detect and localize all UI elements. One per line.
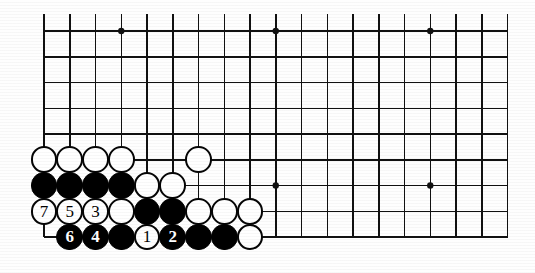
move-number-label: 6 [65, 228, 74, 245]
black-stone[interactable] [82, 172, 109, 199]
white-stone[interactable] [31, 146, 58, 173]
move-number-label: 5 [65, 202, 74, 219]
white-stone-move-5[interactable]: 5 [56, 198, 83, 225]
move-number-label: 1 [143, 228, 152, 245]
black-stone[interactable] [159, 198, 186, 225]
white-stone[interactable] [185, 198, 212, 225]
black-stone-move-4[interactable]: 4 [82, 224, 109, 251]
white-stone[interactable] [185, 146, 212, 173]
white-stone-move-7[interactable]: 7 [31, 198, 58, 225]
go-board-figure: 7536412 [0, 0, 535, 273]
black-stone-move-2[interactable]: 2 [159, 224, 186, 251]
move-number-label: 7 [40, 202, 49, 219]
white-stone[interactable] [237, 224, 264, 251]
stone-layer: 7536412 [0, 0, 535, 273]
black-stone[interactable] [56, 172, 83, 199]
white-stone[interactable] [108, 198, 135, 225]
white-stone[interactable] [237, 198, 264, 225]
move-number-label: 2 [168, 228, 177, 245]
black-stone[interactable] [31, 172, 58, 199]
white-stone[interactable] [82, 146, 109, 173]
white-stone[interactable] [56, 146, 83, 173]
white-stone-move-1[interactable]: 1 [134, 224, 161, 251]
black-stone[interactable] [108, 172, 135, 199]
move-number-label: 4 [91, 228, 100, 245]
black-stone[interactable] [108, 224, 135, 251]
white-stone[interactable] [211, 198, 238, 225]
move-number-label: 3 [91, 202, 100, 219]
black-stone-move-6[interactable]: 6 [56, 224, 83, 251]
white-stone[interactable] [108, 146, 135, 173]
white-stone[interactable] [159, 172, 186, 199]
black-stone[interactable] [185, 224, 212, 251]
white-stone[interactable] [134, 172, 161, 199]
black-stone[interactable] [134, 198, 161, 225]
black-stone[interactable] [211, 224, 238, 251]
white-stone-move-3[interactable]: 3 [82, 198, 109, 225]
